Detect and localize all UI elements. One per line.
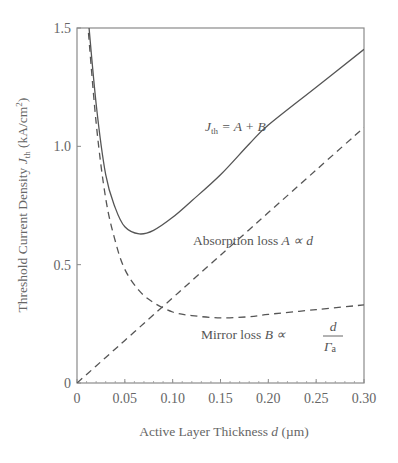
- y-tick-label: 1.5: [54, 21, 72, 36]
- x-tick-label: 0.25: [304, 391, 329, 406]
- x-tick-label: 0.10: [160, 391, 185, 406]
- x-tick-label: 0: [74, 391, 81, 406]
- y-tick-label: 0: [64, 376, 71, 391]
- x-axis-label: Active Layer Thickness d (µm): [139, 424, 309, 439]
- x-tick-label: 0.05: [113, 391, 138, 406]
- x-tick-label: 0.20: [256, 391, 281, 406]
- mirror-annotation: Mirror loss B ∝ d Γa: [201, 319, 343, 354]
- y-axis-label: Threshold Current Density Jth (kA/cm2): [14, 98, 32, 313]
- y-tick-label: 1.0: [54, 139, 72, 154]
- svg-text:Mirror loss B ∝: Mirror loss B ∝: [201, 327, 286, 342]
- absorption-annotation: Absorption loss A ∝ d: [193, 233, 313, 248]
- svg-text:Γa: Γa: [323, 339, 337, 354]
- jth-annotation: Jth = A + B: [205, 119, 266, 136]
- mirror-loss-curve: [87, 9, 364, 318]
- absorption-loss-line: [77, 127, 364, 383]
- chart-svg: 00.050.100.150.200.250.30 00.51.01.5 Thr…: [0, 0, 398, 463]
- y-tick-label: 0.5: [54, 258, 72, 273]
- jth-curve: [87, 0, 364, 234]
- x-tick-label: 0.30: [352, 391, 377, 406]
- svg-text:d: d: [330, 319, 337, 334]
- x-tick-label: 0.15: [208, 391, 233, 406]
- series-layer: [77, 0, 364, 383]
